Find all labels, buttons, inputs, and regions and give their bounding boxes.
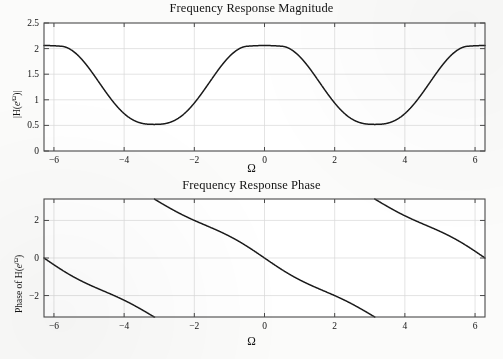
phase-x-tick-label-1: −4 (119, 321, 129, 331)
phase-y-tick-label-2: 2 (0, 215, 39, 225)
phase-x-tick-label-2: −2 (189, 321, 199, 331)
magnitude-y-tick-label-2: 1 (0, 95, 39, 105)
phase-chart-title: Frequency Response Phase (0, 178, 503, 193)
magnitude-x-tick-label-3: 0 (262, 155, 267, 165)
magnitude-chart-title: Frequency Response Magnitude (0, 1, 503, 16)
magnitude-panel: Frequency Response Magnitude |H(ejΩ)| Ω … (0, 0, 503, 178)
phase-y-axis-label-text: Phase of H(ejΩ) (14, 255, 24, 313)
magnitude-x-tick-label-6: 6 (473, 155, 478, 165)
magnitude-x-tick-label-5: 4 (402, 155, 407, 165)
magnitude-y-tick-label-0: 0 (0, 146, 39, 156)
magnitude-x-axis-label: Ω (0, 162, 503, 174)
phase-plot-canvas (0, 178, 503, 359)
phase-y-tick-label-0: −2 (0, 291, 39, 301)
magnitude-x-tick-label-2: −2 (189, 155, 199, 165)
frequency-response-figure: Frequency Response Magnitude |H(ejΩ)| Ω … (0, 0, 503, 359)
phase-x-tick-label-3: 0 (262, 321, 267, 331)
magnitude-plot-canvas (0, 0, 503, 178)
phase-x-tick-label-4: 2 (332, 321, 337, 331)
magnitude-x-tick-label-1: −4 (119, 155, 129, 165)
magnitude-y-tick-label-4: 2 (0, 44, 39, 54)
phase-panel: Frequency Response Phase Phase of H(ejΩ)… (0, 178, 503, 359)
phase-y-axis-label: Phase of H(ejΩ) (14, 255, 24, 313)
phase-x-tick-label-5: 4 (402, 321, 407, 331)
phase-y-tick-label-1: 0 (0, 253, 39, 263)
phase-x-tick-label-6: 6 (473, 321, 478, 331)
phase-x-axis-label: Ω (0, 335, 503, 347)
magnitude-y-tick-label-3: 1.5 (0, 69, 39, 79)
magnitude-y-tick-label-5: 2.5 (0, 18, 39, 28)
magnitude-y-tick-label-1: 0.5 (0, 120, 39, 130)
magnitude-x-tick-label-4: 2 (332, 155, 337, 165)
phase-x-tick-label-0: −6 (49, 321, 59, 331)
magnitude-x-tick-label-0: −6 (49, 155, 59, 165)
